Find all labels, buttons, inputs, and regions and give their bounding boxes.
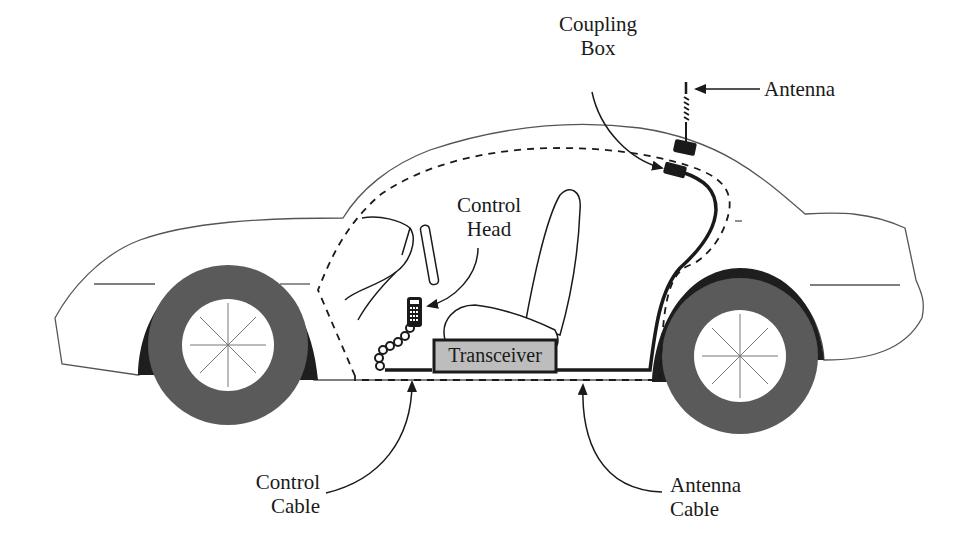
transceiver-label: Transceiver [434,344,556,367]
coupling-box-label: Coupling Box [546,12,650,60]
control-cable-label-line2: Cable [228,494,320,518]
antenna [684,82,689,142]
antenna-label-line1: Antenna [764,77,835,101]
antenna-cable-arrow [583,385,662,492]
control-head-label: Control Head [446,193,532,241]
antenna-label: Antenna [764,77,835,101]
control-cable-label: Control Cable [228,470,320,518]
control-head [407,297,422,327]
antenna-cable-label: Antenna Cable [670,473,741,521]
antenna-cable-label-line1: Antenna [670,473,741,497]
control-cable-arrow [326,382,412,493]
control-head-label-line1: Control [446,193,532,217]
control-head-label-line2: Head [446,217,532,241]
coupling-box-label-line2: Box [546,36,650,60]
control-cable-label-line1: Control [228,470,320,494]
coupling-box-label-line1: Coupling [546,12,650,36]
antenna-cable-label-line2: Cable [670,497,741,521]
